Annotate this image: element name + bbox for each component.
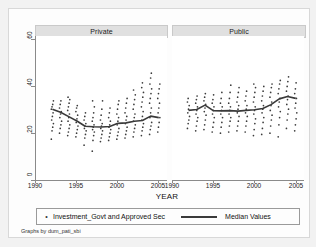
scatter-point — [52, 116, 54, 118]
scatter-point — [278, 101, 280, 103]
scatter-point — [238, 120, 240, 122]
scatter-point — [253, 113, 255, 115]
scatter-point — [69, 124, 71, 126]
scatter-point — [100, 128, 102, 130]
scatter-point — [269, 132, 271, 134]
scatter-point — [67, 120, 69, 122]
scatter-point — [69, 99, 71, 101]
x-label-public-2005: 2005 — [283, 182, 309, 189]
scatter-point — [67, 110, 69, 112]
scatter-point — [157, 98, 159, 100]
scatter-point — [253, 129, 255, 131]
scatter-point — [67, 135, 69, 137]
scatter-point — [50, 108, 52, 110]
legend-label-median: Median Values — [225, 213, 271, 220]
scatter-point — [67, 96, 69, 98]
scatter-point — [195, 130, 197, 132]
x-label-private-1995: 1995 — [63, 182, 89, 189]
scatter-point — [150, 72, 152, 74]
legend-label-scatter: Investment_Govt and Approved Sec — [53, 213, 165, 220]
scatter-point — [246, 90, 248, 92]
scatter-point — [212, 113, 214, 115]
panel-title-public-label: Public — [229, 28, 249, 35]
y-label-20: 20 — [26, 126, 33, 140]
scatter-point — [142, 126, 144, 128]
scatter-point — [220, 132, 222, 134]
scatter-point — [197, 106, 199, 108]
scatter-point — [76, 107, 78, 109]
scatter-point — [151, 88, 153, 90]
scatter-point — [262, 128, 264, 130]
scatter-point — [108, 136, 110, 138]
scatter-point — [118, 128, 120, 130]
scatter-point — [143, 123, 145, 125]
scatter-point — [100, 137, 102, 139]
scatter-point — [295, 102, 297, 104]
x-label-private-1990: 1990 — [22, 182, 48, 189]
graph-card: Private Public 60 40 20 0 1990 1995 2000… — [8, 8, 310, 238]
scatter-point — [61, 120, 63, 122]
scatter-point — [195, 113, 197, 115]
scatter-point — [236, 101, 238, 103]
scatter-point — [150, 125, 152, 127]
scatter-point — [229, 98, 231, 100]
scatter-point — [278, 88, 280, 90]
scatter-point — [278, 124, 280, 126]
scatter-point — [133, 104, 135, 106]
scatter-point — [287, 113, 289, 115]
scatter-point — [83, 119, 85, 121]
scatter-point — [271, 83, 273, 85]
y-label-60: 60 — [26, 32, 33, 46]
scatter-point — [287, 99, 289, 101]
scatter-point — [116, 138, 118, 140]
scatter-point — [244, 100, 246, 102]
scatter-point — [141, 101, 143, 103]
scatter-point — [255, 87, 257, 89]
scatter-point — [237, 96, 239, 98]
scatter-point — [230, 117, 232, 119]
scatter-point — [149, 98, 151, 100]
scatter-point — [75, 136, 77, 138]
scatter-point — [76, 118, 78, 120]
scatter-point — [221, 122, 223, 124]
scatter-point — [108, 112, 110, 114]
scatter-point — [149, 129, 151, 131]
scatter-point — [287, 81, 289, 83]
scatter-point — [92, 129, 94, 131]
scatter-point — [253, 96, 255, 98]
scatter-point — [159, 83, 161, 85]
scatter-point — [236, 112, 238, 114]
scatter-point — [59, 117, 61, 119]
scatter-point — [92, 117, 94, 119]
scatter-point — [85, 134, 87, 136]
scatter-point — [133, 131, 135, 133]
scatter-point — [134, 113, 136, 115]
panel-public-plot — [172, 36, 304, 180]
scatter-point — [108, 117, 110, 119]
scatter-point — [228, 113, 230, 115]
scatter-point — [110, 120, 112, 122]
scatter-point — [295, 88, 297, 90]
panel-title-private-label: Private — [90, 28, 113, 35]
x-label-public-2000: 2000 — [241, 182, 267, 189]
scatter-point — [286, 128, 288, 130]
scatter-point — [101, 123, 103, 125]
scatter-point — [91, 120, 93, 122]
scatter-point — [245, 112, 247, 114]
scatter-point — [245, 95, 247, 97]
scatter-point — [134, 94, 136, 96]
scatter-point — [92, 100, 94, 102]
scatter-point — [59, 104, 61, 106]
scatter-point — [220, 98, 222, 100]
scatter-point — [213, 106, 215, 108]
scatter-point — [277, 136, 279, 138]
scatter-point — [213, 117, 215, 119]
scatter-point — [133, 89, 135, 91]
scatter-point — [77, 125, 79, 127]
scatter-point — [277, 93, 279, 95]
scatter-point — [141, 87, 143, 89]
scatter-point — [230, 84, 232, 86]
scatter-point — [261, 134, 263, 136]
scatter-point — [244, 131, 246, 133]
scatter-point — [270, 125, 272, 127]
